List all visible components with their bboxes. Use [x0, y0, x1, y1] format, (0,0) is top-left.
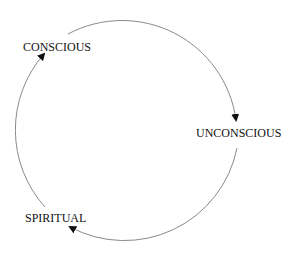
node-unconscious-label: UNCONSCIOUS [196, 126, 281, 140]
node-spiritual-label: SPIRITUAL [25, 211, 86, 225]
edge-spiritual-to-conscious [15, 54, 45, 207]
edge-conscious-to-unconscious [68, 21, 236, 120]
edge-unconscious-to-spiritual [70, 148, 237, 241]
node-conscious-label: CONSCIOUS [23, 40, 91, 54]
